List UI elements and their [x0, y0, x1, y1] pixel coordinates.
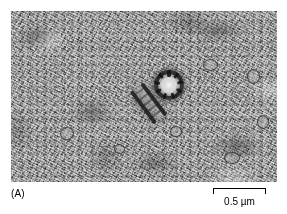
- scale-bar-tick-right: [265, 188, 266, 194]
- vesicle: [247, 69, 260, 84]
- vesicle: [257, 115, 269, 129]
- dense-cytoplasm-patch: [17, 23, 57, 49]
- electron-micrograph-image: [11, 11, 277, 182]
- panel-letter-label: (A): [11, 188, 25, 199]
- vesicle: [60, 127, 74, 140]
- vesicle: [170, 126, 182, 137]
- dense-cytoplasm-patch: [191, 19, 245, 43]
- vesicle: [114, 144, 125, 154]
- scale-bar-tick-left: [213, 188, 214, 194]
- centriole-lumen: [164, 80, 174, 90]
- scale-bar: 0.5 µm: [213, 186, 266, 210]
- dense-cytoplasm-patch: [131, 151, 179, 175]
- scale-bar-label: 0.5 µm: [213, 196, 266, 207]
- dense-cytoplasm-patch: [69, 97, 115, 127]
- scale-bar-line: [213, 188, 266, 189]
- figure-panel: (A) 0.5 µm: [0, 0, 287, 214]
- vesicle: [203, 59, 218, 71]
- dense-cytoplasm-patch: [211, 131, 263, 161]
